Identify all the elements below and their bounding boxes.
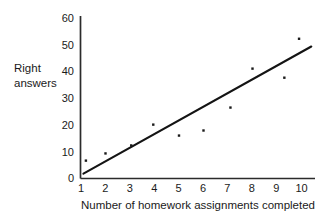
data-point <box>104 152 106 154</box>
data-point <box>229 106 231 108</box>
x-axis-title: Number of homework assignments completed <box>81 199 315 211</box>
x-tick-label-2: 2 <box>102 182 108 194</box>
data-point <box>152 123 154 125</box>
x-tick-label-10: 10 <box>295 182 307 194</box>
y-axis-title-line1: Right <box>14 62 42 74</box>
x-tick-label-5: 5 <box>176 182 182 194</box>
x-tick-label-3: 3 <box>127 182 133 194</box>
x-tick-label-4: 4 <box>151 182 157 194</box>
y-tick-label-60: 60 <box>62 12 74 24</box>
x-tick-label-1: 1 <box>78 182 84 194</box>
data-point <box>85 159 87 161</box>
chart-page: 60 50 40 30 20 10 0 1 2 3 4 5 6 7 8 9 10… <box>0 0 327 221</box>
x-tick-label-6: 6 <box>200 182 206 194</box>
y-axis-title-line2: answers <box>14 77 57 89</box>
data-point <box>130 144 132 146</box>
data-point <box>178 134 180 136</box>
y-tick-label-40: 40 <box>62 65 74 77</box>
trend-line <box>83 47 311 174</box>
y-tick-label-50: 50 <box>62 39 74 51</box>
y-tick-label-30: 30 <box>62 92 74 104</box>
data-point <box>298 38 300 40</box>
x-tick-label-8: 8 <box>249 182 255 194</box>
y-tick-label-20: 20 <box>62 119 74 131</box>
y-tick-label-10: 10 <box>62 146 74 158</box>
data-point <box>251 67 253 69</box>
x-tick-label-7: 7 <box>224 182 230 194</box>
scatter-plot: 60 50 40 30 20 10 0 1 2 3 4 5 6 7 8 9 10… <box>0 0 327 221</box>
data-point <box>283 77 285 79</box>
data-points-group <box>85 38 301 162</box>
data-point <box>202 129 204 131</box>
y-tick-label-0: 0 <box>68 172 74 184</box>
x-tick-label-9: 9 <box>273 182 279 194</box>
